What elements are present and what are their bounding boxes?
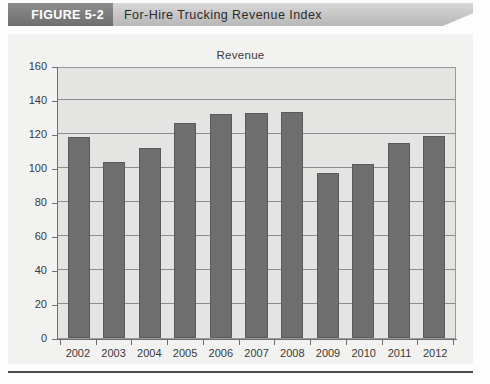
bar-2005[interactable] (174, 123, 196, 338)
y-axis-tick: 40 (52, 271, 58, 272)
x-axis-tick (60, 339, 61, 345)
x-axis-tick (167, 339, 168, 345)
x-axis-line (57, 339, 457, 340)
chart-panel: Revenue 160140120100806040200 2002200320… (8, 34, 473, 364)
x-axis-tick (131, 339, 132, 345)
y-axis-tick: 20 (52, 305, 58, 306)
x-axis-tick (346, 339, 347, 345)
x-axis-label: 2011 (382, 347, 418, 359)
bar-slot (274, 68, 310, 338)
plot-area (57, 67, 456, 339)
bars-layer (58, 68, 455, 338)
bar-slot (168, 68, 204, 338)
x-axis-labels: 2002200320042005200620072008200920102011… (57, 347, 456, 359)
bar-2012[interactable] (423, 136, 445, 338)
x-axis-tick (274, 339, 275, 345)
y-axis-tick: 160 (52, 67, 58, 68)
y-axis-tick-label: 60 (35, 230, 47, 242)
y-axis-tick: 120 (52, 135, 58, 136)
x-axis-label: 2006 (203, 347, 239, 359)
bar-slot (132, 68, 168, 338)
y-axis-tick-label: 20 (35, 298, 47, 310)
bar-slot (381, 68, 417, 338)
x-axis-tick (203, 339, 204, 345)
bar-slot (97, 68, 133, 338)
y-axis-tick: 60 (52, 237, 58, 238)
y-axis-tick: 0 (52, 339, 58, 340)
y-axis-tick-label: 140 (29, 94, 47, 106)
bar-slot (239, 68, 275, 338)
chart-title: Revenue (8, 49, 473, 61)
bar-2009[interactable] (317, 173, 339, 338)
x-axis-tick (453, 339, 454, 345)
x-axis-tick (417, 339, 418, 345)
x-axis-label: 2002 (60, 347, 96, 359)
y-axis-tick-label: 120 (29, 128, 47, 140)
bottom-rule (8, 371, 473, 373)
y-axis-tick: 100 (52, 169, 58, 170)
bar-slot (416, 68, 452, 338)
x-axis-label: 2012 (417, 347, 453, 359)
bar-slot (310, 68, 346, 338)
y-axis-tick: 80 (52, 203, 58, 204)
x-axis-tick (382, 339, 383, 345)
bar-2007[interactable] (245, 113, 267, 338)
bar-2011[interactable] (388, 143, 410, 338)
bar-2006[interactable] (210, 114, 232, 338)
x-axis-label: 2005 (167, 347, 203, 359)
x-axis-label: 2003 (96, 347, 132, 359)
y-axis-tick-label: 0 (41, 332, 47, 344)
x-axis-tick (96, 339, 97, 345)
bar-2010[interactable] (352, 164, 374, 338)
x-axis-label: 2009 (310, 347, 346, 359)
bar-slot (61, 68, 97, 338)
bar-2004[interactable] (139, 148, 161, 338)
y-axis-tick-label: 40 (35, 264, 47, 276)
x-axis-label: 2008 (274, 347, 310, 359)
y-axis-tick-label: 80 (35, 196, 47, 208)
bar-2003[interactable] (103, 162, 125, 338)
bar-2002[interactable] (68, 137, 90, 338)
bar-2008[interactable] (281, 112, 303, 338)
figure-number-label: FIGURE 5-2 (31, 8, 104, 22)
x-axis-label: 2004 (131, 347, 167, 359)
figure-title: For-Hire Trucking Revenue Index (113, 3, 473, 26)
y-axis-tick-label: 160 (29, 60, 47, 72)
y-axis-tick-label: 100 (29, 162, 47, 174)
x-axis-tick (310, 339, 311, 345)
x-axis-label: 2010 (346, 347, 382, 359)
figure-number-band: FIGURE 5-2 (8, 3, 113, 26)
x-axis-tick (239, 339, 240, 345)
y-axis-tick: 140 (52, 101, 58, 102)
bar-slot (203, 68, 239, 338)
bar-slot (345, 68, 381, 338)
x-axis-label: 2007 (239, 347, 275, 359)
figure-header: FIGURE 5-2 For-Hire Trucking Revenue Ind… (8, 3, 473, 26)
